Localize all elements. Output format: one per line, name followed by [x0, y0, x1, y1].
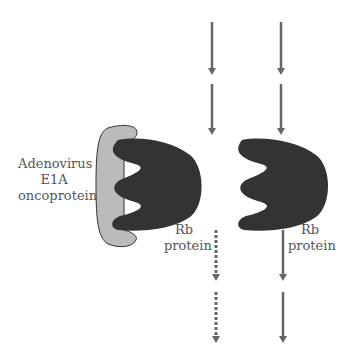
left-arrows-top	[208, 22, 216, 135]
e1a-label: Adenovirus E1A oncoprotein	[18, 156, 90, 204]
right-arrows-bottom	[279, 230, 287, 343]
rb-left-label-line1: Rb	[164, 222, 204, 238]
rb-right-label-line1: Rb	[288, 222, 332, 238]
rb-right-label: Rb protein	[288, 222, 332, 254]
right-arrows-top	[277, 22, 285, 135]
e1a-label-line1: Adenovirus	[18, 156, 90, 172]
left-arrows-bottom-dashed	[212, 230, 220, 343]
rb-left-label: Rb protein	[164, 222, 204, 254]
rb-protein-left-shape	[112, 139, 201, 231]
rb-right-label-line2: protein	[288, 238, 332, 254]
e1a-label-line2: E1A	[18, 172, 90, 188]
e1a-label-line3: oncoprotein	[18, 188, 90, 204]
rb-protein-right-shape	[238, 139, 328, 231]
rb-left-label-line2: protein	[164, 238, 204, 254]
